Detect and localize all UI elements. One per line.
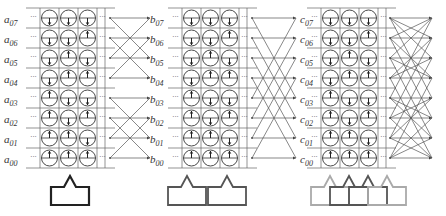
ellipsis-right: ··· bbox=[241, 133, 248, 141]
ellipsis-left: ··· bbox=[30, 53, 37, 61]
ellipsis-right: ··· bbox=[380, 153, 387, 161]
arrowhead-icon bbox=[367, 23, 371, 26]
label-subscript: 05 bbox=[156, 59, 164, 68]
arrowhead-icon bbox=[329, 91, 333, 94]
node-dot bbox=[251, 137, 253, 139]
node-dot bbox=[109, 37, 111, 39]
arrowhead-icon bbox=[190, 43, 194, 46]
arrowhead-icon bbox=[228, 111, 232, 114]
label-subscript: 02 bbox=[156, 119, 164, 128]
ellipsis-right: ··· bbox=[99, 33, 106, 41]
node-dot bbox=[251, 37, 253, 39]
pentagon-shape-icon bbox=[208, 176, 246, 205]
arrowhead-icon bbox=[209, 103, 213, 106]
node-dot bbox=[251, 157, 253, 159]
arrowhead-icon bbox=[367, 31, 371, 34]
arrowhead-icon bbox=[348, 131, 352, 134]
arrowhead-icon bbox=[209, 23, 213, 26]
label-subscript: 06 bbox=[10, 39, 18, 48]
arrowhead-icon bbox=[228, 143, 232, 146]
arrowhead-icon bbox=[48, 111, 52, 114]
ellipsis-left: ··· bbox=[172, 93, 179, 101]
row-label-a02: a02 bbox=[4, 113, 18, 130]
ellipsis-right: ··· bbox=[380, 33, 387, 41]
label-subscript: 04 bbox=[156, 79, 164, 88]
arrowhead-icon bbox=[48, 83, 52, 86]
label-subscript: 01 bbox=[156, 139, 164, 148]
pentagon-shape-icon bbox=[168, 176, 206, 205]
arrowhead-icon bbox=[228, 31, 232, 34]
arrowhead-icon bbox=[86, 23, 90, 26]
arrowhead-icon bbox=[209, 43, 213, 46]
ellipsis-right: ··· bbox=[380, 113, 387, 121]
ellipsis-left: ··· bbox=[30, 153, 37, 161]
ellipsis-right: ··· bbox=[380, 13, 387, 21]
row-label-b02: b02 bbox=[150, 113, 164, 130]
arrowhead-icon bbox=[86, 71, 90, 74]
ellipsis-left: ··· bbox=[172, 133, 179, 141]
node-dot bbox=[251, 77, 253, 79]
row-label-b07: b07 bbox=[150, 13, 164, 30]
node-dot bbox=[109, 137, 111, 139]
arrowhead-icon bbox=[228, 71, 232, 74]
arrowhead-icon bbox=[48, 151, 52, 154]
arrowhead-icon bbox=[348, 23, 352, 26]
arrowhead-icon bbox=[209, 131, 213, 134]
arrowhead-icon bbox=[367, 71, 371, 74]
arrowhead-icon bbox=[228, 151, 232, 154]
arrowhead-icon bbox=[348, 43, 352, 46]
node-dot bbox=[389, 77, 391, 79]
arrowhead-icon bbox=[329, 111, 333, 114]
arrowhead-icon bbox=[329, 151, 333, 154]
arrowhead-icon bbox=[348, 103, 352, 106]
node-dot bbox=[389, 97, 391, 99]
ellipsis-right: ··· bbox=[380, 93, 387, 101]
ellipsis-left: ··· bbox=[30, 13, 37, 21]
ellipsis-right: ··· bbox=[99, 113, 106, 121]
arrowhead-icon bbox=[86, 103, 90, 106]
node-dot bbox=[251, 97, 253, 99]
row-label-a07: a07 bbox=[4, 13, 18, 30]
arrowhead-icon bbox=[67, 123, 71, 126]
node-dot bbox=[389, 37, 391, 39]
arrowhead-icon bbox=[67, 51, 71, 54]
ellipsis-left: ··· bbox=[311, 133, 318, 141]
arrowhead-icon bbox=[86, 63, 90, 66]
arrowhead-icon bbox=[190, 23, 194, 26]
ellipsis-right: ··· bbox=[99, 73, 106, 81]
ellipsis-left: ··· bbox=[172, 13, 179, 21]
ellipsis-left: ··· bbox=[172, 73, 179, 81]
arrowhead-icon bbox=[190, 151, 194, 154]
label-subscript: 00 bbox=[10, 159, 18, 168]
arrowhead-icon bbox=[48, 23, 52, 26]
arrowhead-icon bbox=[329, 83, 333, 86]
ellipsis-right: ··· bbox=[380, 133, 387, 141]
node-dot bbox=[389, 57, 391, 59]
node-dot bbox=[109, 57, 111, 59]
arrowhead-icon bbox=[67, 43, 71, 46]
label-subscript: 01 bbox=[10, 139, 18, 148]
row-label-b06: b06 bbox=[150, 33, 164, 50]
ellipsis-left: ··· bbox=[30, 133, 37, 141]
arrowhead-icon bbox=[348, 151, 352, 154]
arrowhead-icon bbox=[190, 83, 194, 86]
node-dot bbox=[251, 17, 253, 19]
ellipsis-left: ··· bbox=[172, 33, 179, 41]
label-subscript: 03 bbox=[10, 99, 18, 108]
ellipsis-right: ··· bbox=[241, 53, 248, 61]
arrowhead-icon bbox=[190, 131, 194, 134]
arrowhead-icon bbox=[329, 23, 333, 26]
ellipsis-right: ··· bbox=[241, 113, 248, 121]
node-dot bbox=[109, 157, 111, 159]
arrowhead-icon bbox=[367, 103, 371, 106]
node-dot bbox=[389, 117, 391, 119]
arrowhead-icon bbox=[67, 131, 71, 134]
ellipsis-left: ··· bbox=[311, 53, 318, 61]
ellipsis-left: ··· bbox=[311, 73, 318, 81]
arrowhead-icon bbox=[348, 123, 352, 126]
arrowhead-icon bbox=[67, 151, 71, 154]
label-subscript: 04 bbox=[10, 79, 18, 88]
arrowhead-icon bbox=[209, 123, 213, 126]
arrowhead-icon bbox=[190, 63, 194, 66]
arrowhead-icon bbox=[86, 31, 90, 34]
